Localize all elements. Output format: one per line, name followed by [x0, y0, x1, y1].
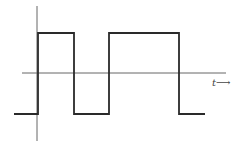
square-wave-diagram: t⟶: [0, 0, 243, 149]
time-axis-label: t⟶: [212, 77, 230, 88]
